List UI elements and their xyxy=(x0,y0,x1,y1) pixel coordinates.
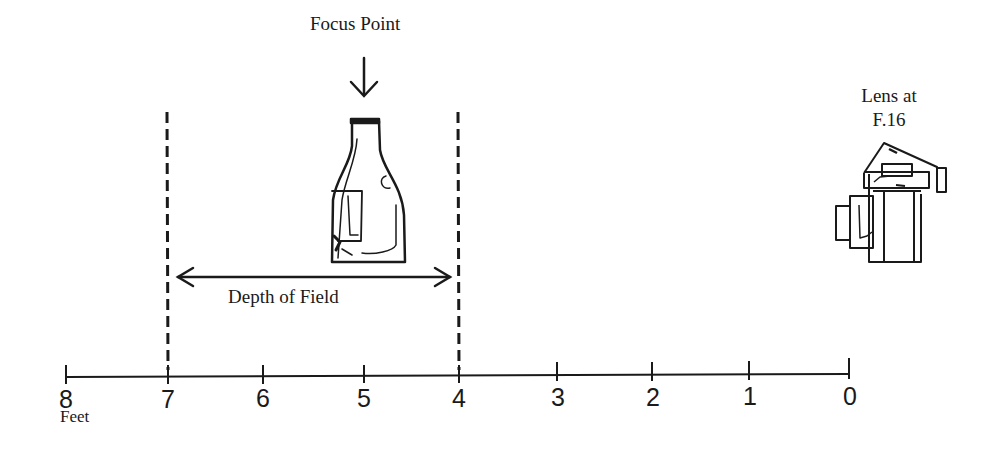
near-limit-dashed-line xyxy=(458,112,459,370)
camera-icon xyxy=(836,143,946,262)
bottle-icon xyxy=(332,119,405,262)
focus-point-label: Focus Point xyxy=(310,14,400,33)
tick-label-4: 4 xyxy=(452,386,466,411)
depth-of-field-boundaries xyxy=(167,112,459,370)
tick-label-8: 8 xyxy=(59,387,73,412)
tick-label-1: 1 xyxy=(743,384,757,409)
tick-label-2: 2 xyxy=(646,385,660,410)
lens-label-line1: Lens at xyxy=(844,84,934,108)
depth-of-field-arrow xyxy=(178,268,450,286)
depth-of-field-diagram xyxy=(0,0,983,451)
focus-down-arrow-icon xyxy=(351,58,377,96)
lens-label: Lens at F.16 xyxy=(844,84,934,132)
tick-label-5: 5 xyxy=(357,386,371,411)
tick-label-6: 6 xyxy=(256,386,270,411)
far-limit-dashed-line xyxy=(167,112,168,370)
lens-label-aperture: F.16 xyxy=(844,108,934,132)
depth-of-field-label: Depth of Field xyxy=(228,287,339,306)
tick-label-0: 0 xyxy=(843,384,857,409)
distance-scale xyxy=(66,358,849,384)
scale-axis-line xyxy=(66,374,849,377)
tick-label-7: 7 xyxy=(161,387,175,412)
tick-label-3: 3 xyxy=(551,385,565,410)
